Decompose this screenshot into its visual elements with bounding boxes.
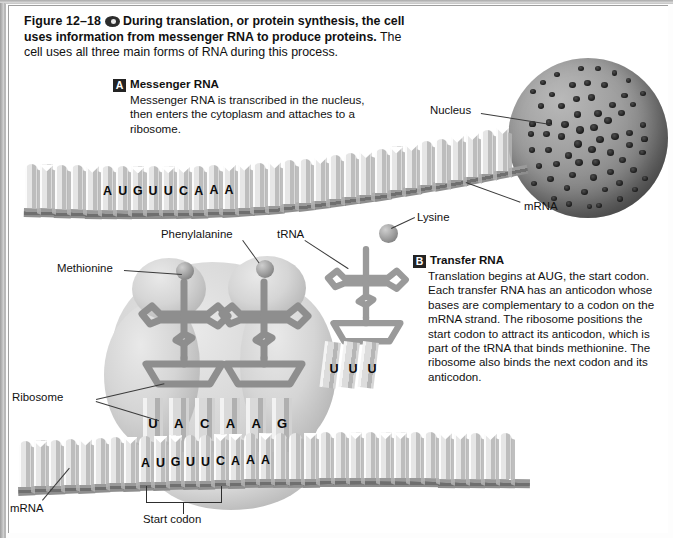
mrna-backbone-segment [513,479,530,488]
mrna-base-block [268,162,281,206]
figure-caption: Figure 12–18During translation, or prote… [24,14,419,61]
mrna-base-letter: U [154,456,167,470]
nuclear-pore [543,131,550,137]
mrna-base-block [109,437,122,483]
mrna-base-block [40,164,53,208]
mrna-base-block [64,439,77,485]
nuclear-pore [565,152,572,159]
base-shadow [508,132,512,178]
anticodon-base-letter: C [195,416,215,431]
nuclear-pore [528,131,534,137]
mrna-base-letter: G [131,184,144,198]
nuclear-pore [569,82,575,88]
nuclear-pore [590,174,597,180]
nuclear-pore [578,66,584,71]
mrna-base-block [283,160,296,204]
mrna-base-block [314,157,327,201]
nuclear-pore [596,203,602,208]
mrna-base-letter: A [101,184,114,198]
section-b-title: Transfer RNA [430,253,504,266]
free-trna-base-letter: U [364,362,380,376]
mrna-base-block [344,153,357,197]
nuclear-pore [573,96,580,102]
mrna-base-block [481,130,494,174]
nuclear-pore [561,121,568,128]
mrna-base-block [390,146,403,190]
section-a-body: Messenger RNA is transcribed in the nucl… [130,93,378,136]
mrna-base-block [319,432,332,478]
nuclear-pore [607,149,614,156]
start-codon-bracket [146,486,222,503]
mrna-base-block [394,432,407,478]
section-b-badge: B [413,255,426,268]
section-a-badge: A [113,79,126,92]
lysine-label: Lysine [417,211,450,223]
mrna-base-letter: A [229,454,242,468]
nuclear-pore [574,111,582,118]
nuclear-pore [545,147,552,153]
nuclear-pore [612,70,618,75]
nuclear-pore [594,110,602,117]
mrna-base-letter: C [177,184,190,198]
phenylalanine-label: Phenylalanine [161,228,233,240]
mrna-base-block [409,432,422,478]
mrna-base-block [469,433,482,479]
trna-bound-phenylalanine [212,272,316,418]
amino-acid-methionine [176,262,194,280]
mrna-base-letter: A [139,456,152,470]
mrna-base-letter: U [147,184,160,198]
methionine-label: Methionine [57,262,113,274]
nuclear-pore [611,133,618,140]
section-messenger-rna: AMessenger RNA Messenger RNA is transcri… [113,74,378,136]
cd-disc-icon [105,16,120,27]
mrna-base-block [299,159,312,203]
mrna-base-block [289,433,302,479]
mrna-base-letter: U [116,184,129,198]
mrna-base-block [375,149,388,193]
mrna-base-block [424,432,437,478]
nuclear-pore [601,82,607,88]
mrna-base-letter: U [184,455,197,469]
section-a-title: Messenger RNA [130,77,219,90]
mrna-base-letter: A [223,183,236,197]
mrna-base-block [124,437,137,483]
mrna-base-block [349,432,362,478]
mrna-top-label: mRNA [524,200,558,212]
frame-edge-top [0,0,673,3]
nuclear-pore [617,196,623,201]
mrna-base-letter: U [162,184,175,198]
mrna-base-block [19,441,32,487]
mrna-base-block [405,144,418,188]
mrna-base-block [451,136,464,180]
anticodon-base-letter: A [246,416,266,431]
nuclear-pore [630,167,636,173]
mrna-base-letter: A [192,184,205,198]
section-b-heading: BTransfer RNA [413,250,656,268]
mrna-base-block [334,432,347,478]
nuclear-pore [621,93,627,99]
mrna-base-letter: G [169,455,182,469]
nuclear-pore [576,126,584,133]
nuclear-pore [607,169,614,175]
nuclear-pore [575,159,583,166]
nuclear-pore [618,110,625,116]
mrna-base-letter: A [259,453,272,467]
mrna-base-block [364,432,377,478]
nuclear-pore [639,150,645,156]
nuclear-pore [574,140,582,147]
mrna-base-block [71,165,84,209]
mrna-base-block [435,139,448,183]
nuclear-pore [626,142,633,148]
nuclear-pore [592,159,600,166]
section-transfer-rna: BTransfer RNA Translation begins at AUG,… [413,250,656,384]
mrna-base-block [55,165,68,209]
nuclear-pore [588,146,596,153]
nuclear-pore [632,187,638,192]
mrna-base-letter: U [199,455,212,469]
nuclear-pore [616,180,622,186]
nuclear-pore [538,103,544,109]
nuclear-pore [569,172,576,178]
nuclear-pore [547,176,553,182]
mrna-base-block [454,433,467,479]
anticodon-base-letter: A [220,416,240,431]
